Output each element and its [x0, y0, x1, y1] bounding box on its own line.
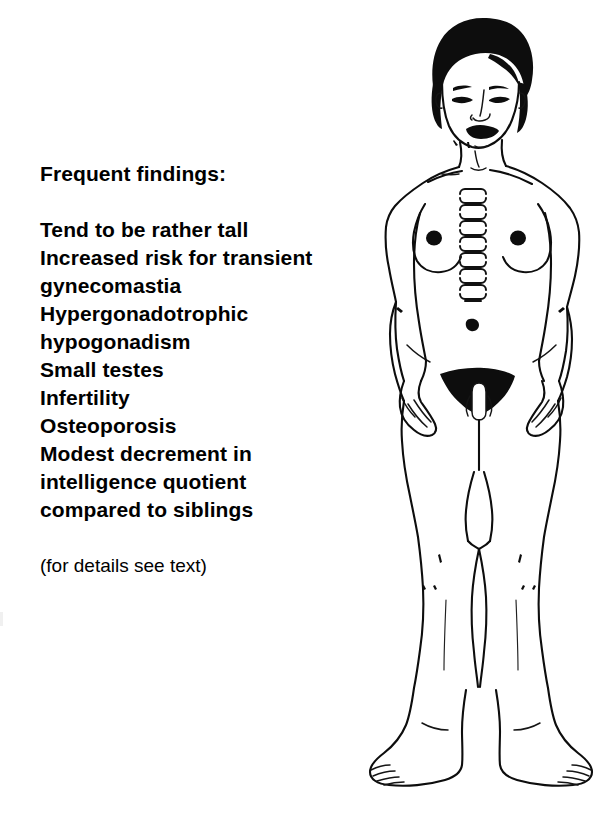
shin-left-line: [444, 600, 446, 670]
nose-bridge: [480, 90, 484, 116]
finding-item: Osteoporosis: [40, 412, 370, 440]
finding-item: Infertility: [40, 384, 370, 412]
calf-right-inner: [479, 549, 486, 687]
torso-right-outline: [506, 166, 579, 401]
knee-tick-left-a: [438, 554, 442, 563]
scan-artifact: [0, 612, 3, 626]
calf-right-outer: [539, 537, 548, 688]
chin-crease: [475, 146, 487, 148]
arm-right-inner: [539, 213, 551, 361]
foot-left: [370, 688, 466, 786]
arm-left-forearm-inner: [421, 361, 426, 381]
sternal-notch: [471, 168, 486, 170]
arm-left-inner: [414, 213, 426, 361]
arm-right-forearm-outer: [559, 307, 568, 381]
neck-right: [502, 140, 506, 166]
hand-left: [400, 381, 436, 436]
thigh-left-outer: [402, 401, 418, 537]
patient-figure-svg: [362, 0, 604, 836]
toe-left-1: [371, 765, 390, 770]
knee-gap-upper: [468, 541, 479, 549]
knee-gap-upper-r: [479, 541, 490, 549]
nipple-left: [426, 231, 442, 246]
toe-left-2: [373, 771, 395, 776]
finding-item: Hypergonadotrophic hypogonadism: [40, 300, 370, 356]
hand-right: [527, 381, 563, 436]
lips: [466, 125, 499, 139]
eye-right: [489, 97, 510, 103]
toe-left-3: [377, 777, 399, 781]
findings-heading: Frequent findings:: [40, 160, 370, 188]
nipple-right: [510, 231, 526, 246]
knee-tick-right-c: [521, 585, 525, 590]
finding-item: Increased risk for transient gynecomasti…: [40, 244, 370, 300]
navel: [466, 319, 479, 331]
foot-right: [496, 688, 592, 786]
knee-tick-left-c: [433, 585, 437, 590]
toe-right-1: [572, 765, 591, 770]
neck-tick-a: [453, 140, 458, 146]
findings-panel: Frequent findings: Tend to be rather tal…: [40, 160, 370, 580]
penis-shaft: [472, 383, 486, 420]
knee-tick-right-b: [532, 585, 536, 590]
findings-note: (for details see text): [40, 552, 370, 580]
flank-tick-left: [396, 307, 403, 313]
arm-right-forearm-inner: [539, 361, 544, 381]
knee-tick-right-a: [518, 554, 522, 563]
hip-crease-right: [533, 345, 556, 362]
illustration-page: Frequent findings: Tend to be rather tal…: [0, 0, 604, 836]
nose-tip: [473, 114, 490, 121]
eyebrow-left: [453, 86, 472, 91]
clavicle-right: [490, 170, 532, 184]
shin-right-line: [516, 600, 518, 670]
toe-right-3: [563, 777, 585, 781]
patient-figure: [362, 0, 604, 836]
foot-left-instep: [422, 723, 448, 730]
head-hair-icon: [432, 18, 533, 133]
finding-item: Small testes: [40, 356, 370, 384]
torso-left-outline: [386, 167, 459, 401]
sternum-markings: [460, 189, 486, 301]
neck-left: [459, 142, 461, 167]
finding-item: Tend to be rather tall: [40, 216, 370, 244]
finding-item: Modest decrement in intelligence quotien…: [40, 440, 370, 524]
findings-list: Tend to be rather tall Increased risk fo…: [40, 216, 370, 524]
arm-left-forearm-outer: [395, 302, 404, 381]
nostril-left: [471, 115, 473, 120]
thigh-right-inner: [484, 472, 492, 541]
thigh-left-inner: [466, 472, 474, 541]
calf-left-inner: [472, 549, 479, 687]
toe-right-2: [567, 771, 589, 776]
clavicle-fossa-left: [442, 174, 459, 175]
eyebrow-right: [489, 86, 509, 90]
foot-right-instep: [514, 723, 540, 730]
calf-left-outer: [414, 537, 423, 688]
eye-left: [452, 97, 473, 103]
flank-tick-right: [558, 307, 565, 313]
neck-muscle-line: [475, 151, 479, 167]
